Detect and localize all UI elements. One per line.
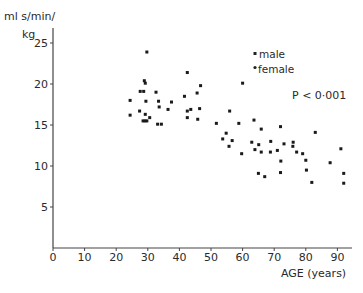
data-point <box>144 100 147 103</box>
data-point <box>292 141 295 144</box>
data-point <box>186 71 189 74</box>
data-point <box>342 172 345 175</box>
data-point <box>196 118 199 121</box>
y-tick-label: 15 <box>34 119 48 132</box>
data-point <box>282 142 285 145</box>
x-tick-label: 40 <box>172 251 186 264</box>
data-point <box>144 82 147 85</box>
x-tick-label: 70 <box>267 251 281 264</box>
y-tick-label: 25 <box>34 37 48 50</box>
data-point <box>186 110 189 113</box>
x-tick-label: 20 <box>109 251 123 264</box>
x-tick-label: 30 <box>141 251 155 264</box>
p-value-annotation: P < 0·001 <box>292 89 346 102</box>
data-point <box>231 139 234 142</box>
data-point <box>155 91 158 94</box>
data-point <box>241 82 244 85</box>
data-point <box>291 145 294 148</box>
data-point <box>158 105 161 108</box>
data-point <box>144 113 147 116</box>
data-point <box>145 51 148 54</box>
y-ticks: 510152025 <box>34 37 53 214</box>
data-point <box>314 131 317 134</box>
data-point <box>186 116 189 119</box>
y-tick-label: 5 <box>41 201 48 214</box>
x-tick-label: 0 <box>50 251 57 264</box>
data-point <box>228 145 231 148</box>
x-axis-label: AGE (years) <box>281 267 346 280</box>
data-point <box>189 108 192 111</box>
data-point <box>198 107 201 110</box>
data-point <box>279 160 282 163</box>
data-point <box>304 159 307 162</box>
data-point <box>145 119 148 122</box>
data-point <box>237 122 240 125</box>
data-point <box>339 147 342 150</box>
data-point <box>129 114 132 117</box>
x-tick-label: 50 <box>204 251 218 264</box>
data-point <box>310 181 313 184</box>
data-point <box>156 123 159 126</box>
data-point <box>148 116 151 119</box>
y-axis-label-line1: ml s/min/ <box>4 10 55 23</box>
data-point <box>269 151 272 154</box>
x-ticks: 0102030405060708090 <box>50 248 345 264</box>
data-point <box>129 99 132 102</box>
legend-male-marker <box>254 52 257 55</box>
data-point <box>167 108 170 111</box>
data-point <box>170 101 173 104</box>
legend-female-marker <box>253 66 256 69</box>
data-point <box>263 175 266 178</box>
data-point <box>183 95 186 98</box>
data-points <box>129 51 346 185</box>
x-tick-label: 90 <box>330 251 344 264</box>
x-tick-label: 10 <box>78 251 92 264</box>
data-point <box>279 125 282 128</box>
data-point <box>139 90 142 93</box>
data-point <box>252 119 255 122</box>
data-point <box>142 90 145 93</box>
data-point <box>250 141 253 144</box>
data-point <box>342 182 345 185</box>
data-point <box>215 122 218 125</box>
data-point <box>279 171 282 174</box>
data-point <box>260 151 263 154</box>
data-point <box>225 132 228 135</box>
scatter-chart: ml s/min/ kg 510152025 01020304050607080… <box>0 0 363 293</box>
legend: male female <box>253 48 294 75</box>
data-point <box>257 143 260 146</box>
data-point <box>253 148 256 151</box>
data-point <box>157 100 160 103</box>
x-tick-label: 80 <box>299 251 313 264</box>
data-point <box>199 84 202 87</box>
y-tick-label: 10 <box>34 160 48 173</box>
data-point <box>160 123 163 126</box>
y-tick-label: 20 <box>34 78 48 91</box>
data-point <box>276 149 279 152</box>
data-point <box>196 92 199 95</box>
data-point <box>221 137 224 140</box>
data-point <box>138 110 141 113</box>
data-point <box>260 128 263 131</box>
data-point <box>257 172 260 175</box>
data-point <box>301 152 304 155</box>
legend-male-label: male <box>259 48 285 60</box>
data-point <box>305 169 308 172</box>
data-point <box>240 152 243 155</box>
data-point <box>295 151 298 154</box>
data-point <box>329 161 332 164</box>
data-point <box>228 110 231 113</box>
legend-female-label: female <box>258 63 294 75</box>
x-tick-label: 60 <box>236 251 250 264</box>
data-point <box>269 140 272 143</box>
